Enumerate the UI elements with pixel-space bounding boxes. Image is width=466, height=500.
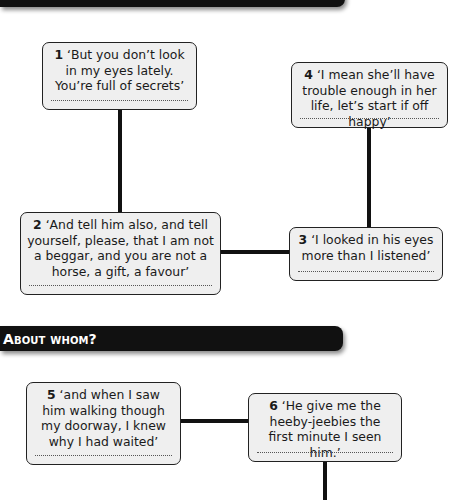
quote-number: 1 [54, 47, 63, 62]
quote-number: 6 [269, 398, 278, 413]
answer-line-3[interactable] [298, 271, 434, 272]
quote-box-4: 4 ‘I mean she’ll have trouble enough in … [291, 62, 448, 128]
quote-number: 4 [304, 67, 313, 82]
quote-text: ‘and when I saw him walking though my do… [41, 387, 166, 449]
quote-text: ‘I looked in his eyes more than I listen… [302, 232, 434, 263]
answer-line-1[interactable] [51, 100, 188, 101]
quote-number: 3 [299, 232, 308, 247]
connector-5-6 [179, 419, 250, 423]
quote-text: ‘He give me the heeby-jeebies the first … [269, 398, 382, 460]
connector-2-3 [219, 250, 290, 254]
quote-text: ‘I mean she’ll have trouble enough in he… [302, 67, 436, 129]
quote-box-6: 6 ‘He give me the heeby-jeebies the firs… [248, 393, 402, 462]
connector-6-down [323, 460, 327, 500]
connector-1-2 [118, 109, 122, 213]
quote-text: ‘And tell him also, and tell yourself, p… [27, 217, 214, 279]
quote-number: 5 [47, 387, 56, 402]
section-banner-about-whom: About whom? [0, 326, 343, 351]
answer-line-5[interactable] [35, 455, 172, 456]
quote-box-5: 5 ‘and when I saw him walking though my … [26, 382, 181, 465]
answer-line-2[interactable] [29, 285, 212, 286]
section-title-about-whom: About whom? [3, 332, 97, 346]
quote-box-2: 2 ‘And tell him also, and tell yourself,… [20, 212, 221, 295]
answer-line-6[interactable] [257, 452, 393, 453]
quote-box-1: 1 ‘But you don’t look in my eyes lately.… [42, 42, 197, 110]
quote-box-3: 3 ‘I looked in his eyes more than I list… [289, 227, 443, 281]
connector-4-3 [367, 126, 371, 228]
answer-line-4[interactable] [300, 118, 439, 119]
section-banner-top [0, 0, 345, 7]
quote-number: 2 [33, 217, 42, 232]
quote-text: ‘But you don’t look in my eyes lately. Y… [55, 47, 185, 93]
